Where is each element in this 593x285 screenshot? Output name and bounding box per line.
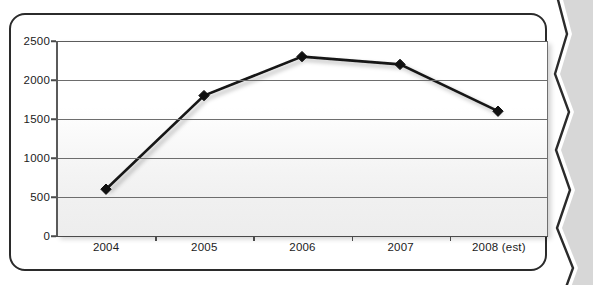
x-tick-label: 2008 (est) (472, 241, 526, 253)
x-axis-line (56, 236, 548, 238)
line-chart: 05001000150020002500 2004200520062007200… (0, 0, 560, 285)
series-line-group (57, 41, 547, 236)
x-tick-label: 2006 (289, 241, 315, 253)
scanned-page: and hit a new high of 2,300 units at the… (0, 0, 593, 285)
x-tick-mark (352, 236, 354, 241)
data-point-marker (493, 106, 503, 116)
y-tick-mark (51, 157, 56, 159)
y-tick-label: 500 (4, 191, 50, 203)
x-tick-mark (450, 236, 452, 241)
x-tick-label: 2004 (93, 241, 119, 253)
series-polyline (106, 57, 498, 190)
y-tick-mark (51, 235, 56, 237)
y-tick-label: 1500 (4, 113, 50, 125)
y-tick-mark (51, 196, 56, 198)
torn-page-edge (548, 0, 593, 285)
data-point-marker (297, 51, 307, 61)
gridline (57, 119, 547, 120)
y-axis-tick-labels: 05001000150020002500 (0, 0, 50, 285)
y-tick-mark (51, 118, 56, 120)
y-tick-mark (51, 40, 56, 42)
y-tick-label: 2000 (4, 74, 50, 86)
x-tick-mark (253, 236, 255, 241)
x-tick-label: 2007 (387, 241, 413, 253)
gridline (57, 197, 547, 198)
x-tick-mark (155, 236, 157, 241)
data-point-marker (395, 59, 405, 69)
y-tick-label: 2500 (4, 35, 50, 47)
gridline (57, 158, 547, 159)
y-tick-label: 1000 (4, 152, 50, 164)
y-tick-label: 0 (4, 230, 50, 242)
data-point-markers (101, 51, 503, 194)
y-axis-line (56, 41, 58, 237)
x-tick-label: 2005 (191, 241, 217, 253)
plot-area (57, 41, 548, 236)
y-tick-mark (51, 79, 56, 81)
gridline (57, 80, 547, 81)
gridline (57, 41, 547, 42)
